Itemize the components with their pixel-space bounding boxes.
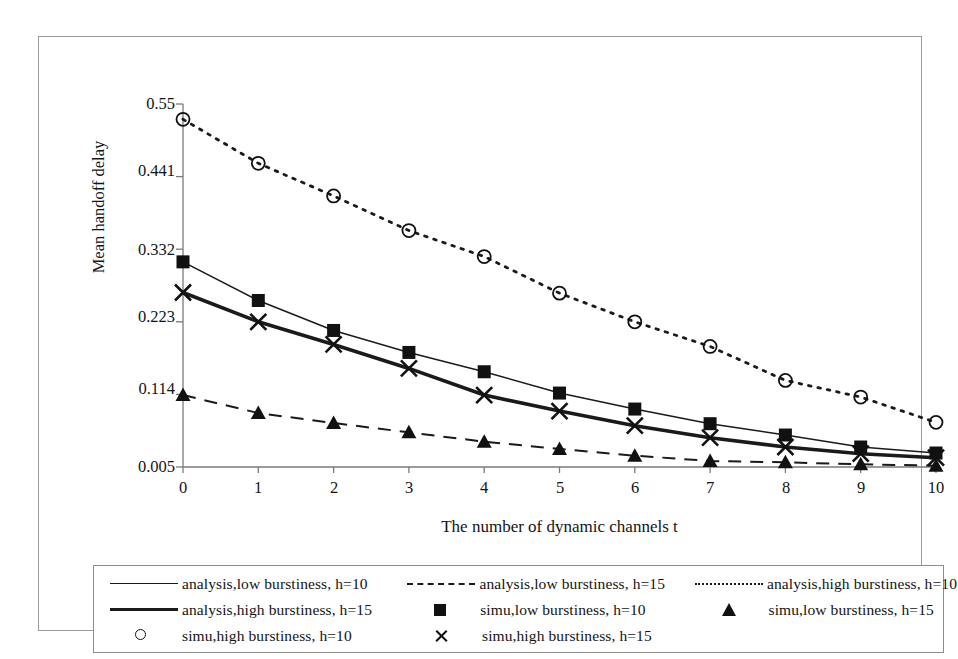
x-axis-title: The number of dynamic channels t (183, 517, 936, 537)
data-point-marker (327, 189, 340, 202)
data-point-marker (177, 255, 190, 268)
legend-row: analysis,low burstiness, h=10 analysis,l… (94, 571, 943, 597)
legend-item-analysis-high-h10[interactable]: analysis,high burstiness, h=10 (693, 571, 943, 597)
legend-label: simu,high burstiness, h=15 (482, 627, 652, 645)
data-point-marker (930, 416, 943, 429)
y-axis-title: Mean handoff delay (89, 107, 109, 307)
legend-item-simu-low-h10[interactable]: simu,low burstiness, h=10 (406, 597, 694, 623)
data-point-marker (628, 315, 641, 328)
cross-marker-icon (408, 625, 482, 647)
series-line (183, 262, 936, 453)
series-lines (183, 119, 936, 465)
series-line (183, 292, 936, 457)
chart-canvas (123, 74, 958, 504)
data-point-marker (628, 403, 641, 416)
data-point-marker (553, 387, 566, 400)
chart-legend: analysis,low burstiness, h=10 analysis,l… (93, 565, 944, 653)
data-point-marker (326, 416, 341, 430)
series-line (183, 395, 936, 466)
legend-label: analysis,low burstiness, h=15 (479, 575, 665, 593)
solid-thin-line-icon (108, 573, 182, 595)
dashed-line-icon (405, 573, 479, 595)
open-circle-marker-icon (108, 625, 182, 647)
filled-triangle-marker-icon (695, 599, 769, 621)
legend-label: simu,low burstiness, h=15 (769, 601, 934, 619)
legend-item-analysis-high-h15[interactable]: analysis,high burstiness, h=15 (94, 597, 406, 623)
data-point-marker (477, 434, 492, 448)
legend-item-simu-high-h10[interactable]: simu,high burstiness, h=10 (94, 623, 408, 649)
legend-label: analysis,low burstiness, h=10 (182, 575, 368, 593)
data-point-marker (854, 441, 867, 454)
filled-square-marker-icon (406, 599, 480, 621)
legend-item-analysis-low-h10[interactable]: analysis,low burstiness, h=10 (94, 571, 405, 597)
solid-thick-line-icon (108, 599, 182, 621)
legend-item-analysis-low-h15[interactable]: analysis,low burstiness, h=15 (405, 571, 693, 597)
series-line (183, 119, 936, 422)
dotted-line-icon (693, 573, 767, 595)
legend-label: simu,low burstiness, h=10 (480, 601, 645, 619)
data-point-marker (478, 250, 491, 263)
legend-label: analysis,high burstiness, h=15 (182, 601, 372, 619)
figure-frame: Mean handoff delay 0.55 0.441 0.332 0.22… (38, 36, 922, 631)
plot-area (183, 104, 936, 467)
data-point-marker (327, 324, 340, 337)
legend-item-simu-low-h15[interactable]: simu,low burstiness, h=15 (695, 597, 944, 623)
data-point-marker (704, 417, 717, 430)
data-point-marker (779, 429, 792, 442)
data-point-marker (478, 365, 491, 378)
data-point-marker (252, 294, 265, 307)
legend-item-simu-high-h15[interactable]: simu,high burstiness, h=15 (408, 623, 698, 649)
legend-row: analysis,high burstiness, h=15 simu,low … (94, 597, 943, 623)
legend-label: simu,high burstiness, h=10 (182, 627, 352, 645)
legend-label: analysis,high burstiness, h=10 (767, 575, 957, 593)
legend-row: simu,high burstiness, h=10 simu,high bur… (94, 623, 943, 649)
data-point-marker (402, 346, 415, 359)
